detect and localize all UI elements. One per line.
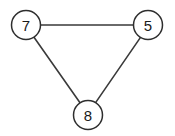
edge-group (34, 25, 141, 103)
node-7[interactable]: 7 (12, 11, 41, 40)
graph-canvas: 7 5 8 (0, 0, 175, 136)
node-8[interactable]: 8 (74, 101, 103, 130)
node-5-label: 5 (144, 17, 152, 34)
graph-svg: 7 5 8 (0, 0, 175, 136)
edge-7-8 (34, 37, 80, 103)
edge-5-8 (96, 37, 141, 102)
node-8-label: 8 (84, 107, 92, 124)
node-7-label: 7 (22, 17, 30, 34)
node-5[interactable]: 5 (134, 11, 163, 40)
